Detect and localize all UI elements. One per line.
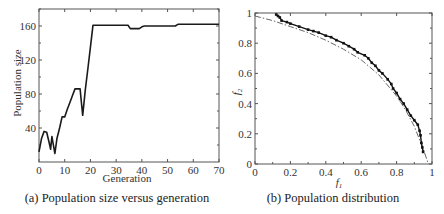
population-point (399, 98, 402, 101)
population-point (392, 87, 395, 90)
population-points (275, 13, 425, 153)
population-point (406, 108, 409, 111)
x-tick-label: 0.8 (390, 166, 404, 178)
population-point (374, 65, 377, 68)
pareto-front-reference-line (255, 16, 429, 164)
x-tick-label: 1 (429, 166, 435, 178)
population-point (363, 54, 366, 57)
x-tick-label: 0 (36, 164, 42, 176)
population-point (420, 142, 423, 145)
population-point (378, 69, 381, 72)
population-point (371, 62, 374, 65)
x-tick-label: 0.6 (354, 166, 368, 178)
y-axis-label-a: Population size (11, 49, 23, 117)
plot-frame-a (39, 9, 219, 162)
population-point (335, 39, 338, 42)
x-tick-label: 60 (188, 164, 200, 176)
axis-ticks-b: 00.20.40.60.8100.20.40.60.81 (238, 7, 435, 178)
y-tick-label: 0 (247, 158, 253, 170)
x-tick-label: 50 (162, 164, 174, 176)
y-tick-label: 160 (20, 20, 37, 32)
chart-population-size: 0102030405060704080120160 Generation Pop… (11, 9, 225, 205)
population-point (410, 114, 413, 117)
y-tick-label: 0.4 (238, 98, 252, 110)
population-point (279, 16, 282, 19)
y-tick-label: 0.8 (238, 37, 252, 49)
population-point (286, 21, 289, 24)
population-point (325, 34, 328, 37)
population-point (289, 22, 292, 25)
caption-a: (a) Population size versus generation (25, 191, 210, 205)
chart-population-distribution: 00.20.40.60.8100.20.40.60.81 f1 f2 (b) P… (230, 7, 435, 205)
population-point (348, 45, 351, 48)
plot-frame-b (255, 13, 432, 164)
population-points-line (276, 15, 423, 152)
axis-ticks-a: 0102030405060704080120160 (20, 9, 226, 176)
x-tick-label: 0.4 (319, 166, 333, 178)
y-axis-label-b: f2 (230, 88, 244, 95)
population-point (307, 28, 310, 31)
x-axis-label-b: f1 (336, 176, 343, 190)
population-point (422, 151, 425, 154)
population-point (356, 51, 359, 54)
y-tick-label: 80 (25, 88, 37, 100)
population-point (330, 36, 333, 39)
population-point (342, 42, 345, 45)
y-tick-label: 40 (25, 122, 37, 134)
x-tick-label: 20 (85, 164, 97, 176)
population-point (402, 102, 405, 105)
x-axis-label-a: Generation (103, 172, 152, 184)
x-tick-label: 10 (59, 164, 71, 176)
population-point (367, 57, 370, 60)
y-tick-label: 0.2 (238, 128, 252, 140)
population-point (280, 19, 283, 22)
population-point (386, 78, 389, 81)
population-point (317, 31, 320, 34)
population-point (413, 119, 416, 122)
x-tick-label: 0 (252, 166, 258, 178)
population-point (417, 123, 420, 126)
population-point (298, 25, 301, 28)
figure: 0102030405060704080120160 Generation Pop… (0, 0, 444, 214)
x-tick-label: 70 (214, 164, 226, 176)
x-tick-label: 0.2 (284, 166, 298, 178)
population-point (395, 92, 398, 95)
population-point (312, 30, 315, 33)
y-tick-label: 1 (247, 7, 253, 19)
population-point (353, 48, 356, 51)
y-tick-label: 0.6 (238, 67, 252, 79)
population-point (421, 146, 424, 149)
population-point (381, 72, 384, 75)
population-point (419, 134, 422, 137)
population-size-line (39, 24, 219, 153)
population-point (418, 130, 421, 133)
caption-b: (b) Population distribution (267, 191, 400, 205)
population-point (390, 83, 393, 86)
